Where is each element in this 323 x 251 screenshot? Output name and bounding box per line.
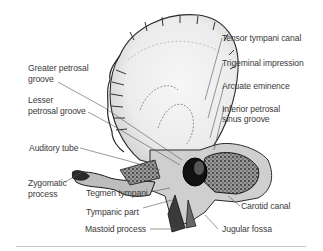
label-trigeminal-impression: Trigeminal impression (222, 58, 304, 68)
anatomy-figure: Tensor tympani canal Trigeminal impressi… (0, 0, 323, 251)
label-lesser-petrosal-groove-line1: Lesser (28, 95, 53, 105)
label-tympanic-part: Tympanic part (86, 207, 139, 217)
label-carotid-canal: Carotid canal (241, 201, 290, 211)
label-mastoid-process: Mastoid process (85, 224, 146, 234)
label-zygomatic-process-line1: Zygomatic (28, 178, 67, 188)
label-lesser-petrosal-groove-line2: petrosal groove (28, 106, 86, 116)
label-jugular-fossa: Jugular fossa (222, 224, 272, 234)
label-zygomatic-process-line2: process (28, 189, 57, 199)
label-tensor-tympani-canal: Tensor tympani canal (222, 33, 301, 43)
label-arcuate-eminence: Arcuate eminence (222, 81, 290, 91)
label-auditory-tube: Auditory tube (29, 143, 78, 153)
figure-divider (16, 246, 306, 247)
label-inferior-petrosal-sinus-groove-line2: sinus groove (222, 114, 270, 124)
label-greater-petrosal-groove-line2: groove (28, 74, 54, 84)
label-inferior-petrosal-sinus-groove-line1: Inferior petrosal (222, 104, 280, 114)
label-greater-petrosal-groove-line1: Greater petrosal (28, 63, 89, 73)
label-tegmen-tympani: Tegmen tympani (86, 188, 148, 198)
